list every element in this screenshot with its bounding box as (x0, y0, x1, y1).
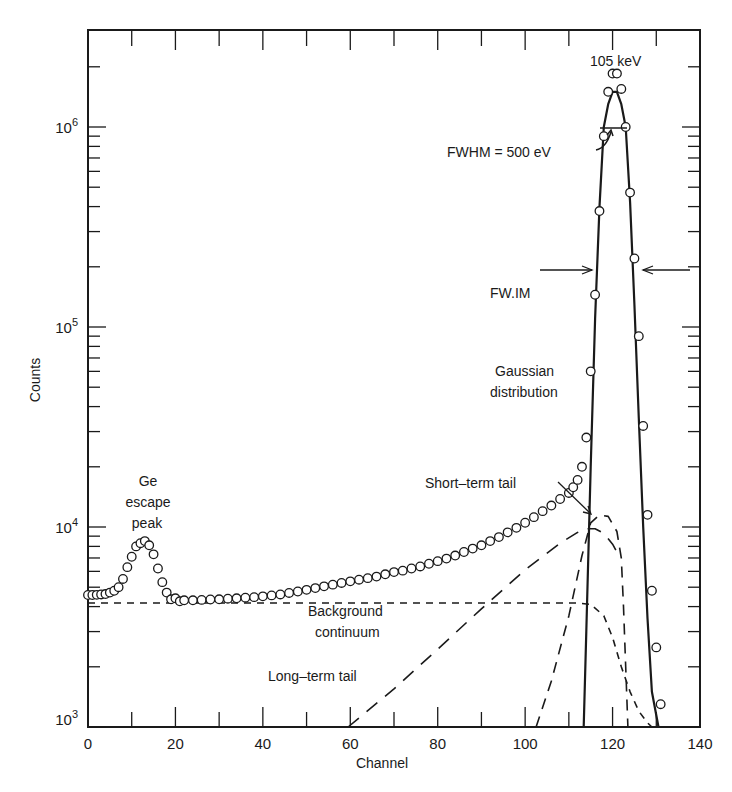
y-tick-label: 106 (55, 116, 78, 136)
data-point (556, 495, 565, 504)
fwim-arrows (540, 266, 690, 274)
data-point (119, 575, 128, 584)
data-point (224, 594, 233, 603)
y-tick-label: 105 (55, 316, 78, 336)
data-point (626, 188, 635, 197)
data-point (573, 476, 582, 485)
data-point (267, 591, 276, 600)
data-point (591, 290, 600, 299)
data-point (363, 574, 372, 583)
data-point (613, 69, 622, 78)
fwim-label: FW.IM (490, 285, 530, 301)
data-point (460, 548, 469, 557)
escape-peak-label-line3: peak (132, 515, 163, 531)
data-point (381, 570, 390, 579)
escape-peak-label-line2: escape (125, 494, 170, 510)
data-point (416, 562, 425, 571)
data-point (398, 566, 407, 575)
data-point (582, 433, 591, 442)
data-point (643, 511, 652, 520)
data-point (595, 207, 604, 216)
data-point (180, 596, 189, 605)
x-tick-label: 60 (342, 735, 359, 752)
y-tick-label: 103 (55, 708, 78, 728)
data-point (547, 501, 556, 510)
data-point (114, 583, 123, 592)
data-point (346, 577, 355, 586)
data-point (617, 85, 626, 94)
background-continuum-label-line1: Background (308, 603, 383, 619)
data-point (232, 594, 241, 603)
data-point (433, 557, 442, 566)
data-point (495, 533, 504, 542)
data-point (648, 586, 657, 595)
data-point (241, 593, 250, 602)
data-point (656, 700, 665, 709)
data-point (600, 132, 609, 141)
data-point (259, 592, 268, 601)
data-point (294, 587, 303, 596)
data-point (337, 579, 346, 588)
data-point (521, 518, 530, 527)
data-point (630, 254, 639, 263)
x-tick-label: 140 (687, 735, 712, 752)
x-tick-label: 80 (429, 735, 446, 752)
data-point (123, 563, 132, 572)
data-point (285, 589, 294, 598)
y-axis-title: Counts (27, 358, 43, 402)
escape-peak-label-line1: Ge (139, 473, 158, 489)
data-point (652, 643, 661, 652)
gaussian-label-line1: Gaussian (495, 363, 554, 379)
data-point (635, 332, 644, 341)
data-point (250, 593, 259, 602)
data-point (451, 551, 460, 560)
y-tick-label: 104 (55, 516, 78, 536)
data-point (154, 564, 163, 573)
spectrum-chart: 020406080100120140103104105106 Channel C… (0, 0, 732, 792)
x-tick-label: 40 (255, 735, 272, 752)
data-point (127, 552, 136, 561)
gaussian-distribution-curve (584, 92, 659, 727)
fwhm-label: FWHM = 500 eV (447, 144, 552, 160)
data-point (486, 537, 495, 546)
x-tick-label: 0 (84, 735, 92, 752)
data-point (197, 596, 206, 605)
data-point (468, 544, 477, 553)
x-tick-label: 100 (513, 735, 538, 752)
data-point (215, 595, 224, 604)
data-point (442, 554, 451, 563)
data-point (372, 572, 381, 581)
data-point (145, 541, 154, 550)
x-axis-title: Channel (356, 755, 408, 771)
long-term-tail-curve (348, 529, 619, 727)
data-point (206, 595, 215, 604)
data-point (621, 123, 630, 132)
data-point (407, 564, 416, 573)
data-point (586, 367, 595, 376)
data-point (302, 586, 311, 595)
data-point (311, 584, 320, 593)
data-point (320, 582, 329, 591)
peak-energy-label: 105 keV (590, 53, 642, 69)
data-point (530, 513, 539, 522)
data-point (189, 596, 198, 605)
x-tick-label: 20 (167, 735, 184, 752)
data-point (604, 87, 613, 96)
x-tick-label: 120 (600, 735, 625, 752)
data-point (503, 528, 512, 537)
data-point (329, 580, 338, 589)
data-point (425, 559, 434, 568)
data-point (355, 575, 364, 584)
data-point (538, 507, 547, 516)
short-term-tail-label: Short–term tail (425, 475, 516, 491)
long-term-tail-label: Long–term tail (268, 668, 357, 684)
gaussian-label-line2: distribution (490, 384, 558, 400)
data-point (158, 578, 167, 587)
data-point (390, 568, 399, 577)
data-point (276, 590, 285, 599)
data-point (639, 422, 648, 431)
data-point (512, 524, 521, 533)
data-point (149, 550, 158, 559)
background-continuum-label-line2: continuum (315, 624, 380, 640)
data-point (578, 462, 587, 471)
